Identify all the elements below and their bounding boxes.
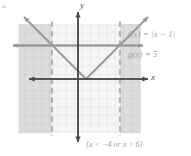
axis-x-label: x [151, 72, 155, 82]
equation-g-label: g(x) = 5 [128, 49, 158, 59]
absolute-value-inequality-figure: a. [0, 0, 191, 156]
graph-canvas [0, 0, 191, 156]
equation-f-label: f(x) = |x − 1| [128, 29, 175, 39]
solution-set-label: {x < −4 or x > 6} [86, 140, 143, 149]
axis-y-label: y [80, 0, 84, 10]
